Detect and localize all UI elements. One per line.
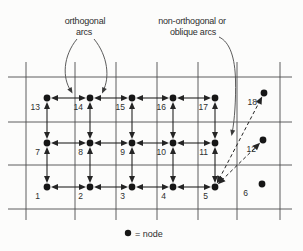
arc-arrowhead-icon	[121, 140, 128, 146]
arc-arrowhead-icon	[94, 184, 101, 190]
arc-arrowhead-icon	[121, 184, 128, 190]
orthogonal-arc	[170, 102, 176, 139]
orthogonal-arc	[44, 102, 50, 139]
node-dot	[129, 140, 136, 147]
oblique-arcs-label-line2: oblique arcs	[170, 27, 217, 37]
orthogonal-arc	[212, 102, 218, 139]
orthogonal-arcs-label-line1: orthogonal	[65, 16, 106, 26]
arc-arrowhead-icon	[87, 132, 93, 139]
legend-node-dot-icon	[125, 230, 131, 236]
orthogonal-arc	[51, 140, 86, 146]
arc-arrowhead-icon	[136, 184, 143, 190]
arc-arrowhead-icon	[44, 102, 50, 109]
arc-arrowhead-icon	[87, 102, 93, 109]
node-dot	[212, 140, 219, 147]
arc-arrowhead-icon	[129, 147, 135, 154]
node-dot	[87, 184, 94, 191]
arc-arrowhead-icon	[177, 95, 184, 101]
node-dot	[212, 95, 219, 102]
node-label: 10	[157, 147, 167, 157]
grid-lines-layer	[8, 62, 292, 220]
orthogonal-leader-right-line	[94, 39, 107, 91]
node-dot	[259, 181, 266, 188]
node-dot	[170, 140, 177, 147]
node-dot	[129, 184, 136, 191]
arc-arrowhead-icon	[44, 176, 50, 183]
node-label: 1	[35, 191, 40, 201]
node-dot	[44, 95, 51, 102]
node-label: 16	[157, 102, 167, 112]
node-label: 6	[243, 188, 248, 198]
orthogonal-arc	[177, 95, 211, 101]
arc-arrowhead-icon	[121, 95, 128, 101]
arc-arrowhead-icon	[204, 95, 211, 101]
orthogonal-arc	[51, 95, 86, 101]
orthogonal-arc	[94, 140, 128, 146]
node-label: 4	[161, 191, 166, 201]
orthogonal-arc	[136, 95, 169, 101]
node-label: 14	[74, 102, 84, 112]
orthogonal-arc	[51, 184, 86, 190]
orthogonal-arcs-label-line2: arcs	[76, 27, 93, 37]
arc-arrowhead-icon	[87, 176, 93, 183]
node-label: 9	[120, 147, 125, 157]
arc-arrowhead-icon	[51, 140, 58, 146]
orthogonal-arc	[177, 184, 211, 190]
node-label: 11	[199, 147, 208, 157]
orthogonal-arc	[136, 184, 169, 190]
node-label: 15	[116, 102, 126, 112]
diagram-canvas: 123456789101112131415161718 orthogonal a…	[0, 0, 303, 251]
node-label: 17	[199, 102, 209, 112]
arc-arrowhead-icon	[212, 147, 218, 154]
arc-arrowhead-icon	[129, 102, 135, 109]
node-label: 18	[248, 97, 258, 107]
arc-arrowhead-icon	[79, 95, 86, 101]
node-label: 2	[78, 191, 83, 201]
arc-arrowhead-icon	[87, 147, 93, 154]
arc-arrowhead-icon	[79, 184, 86, 190]
node-label: 12	[247, 144, 257, 154]
orthogonal-leader-left-arrowhead-icon	[67, 87, 72, 93]
arc-arrowhead-icon	[136, 95, 143, 101]
arc-arrowhead-icon	[129, 176, 135, 183]
arc-arrowhead-icon	[177, 140, 184, 146]
node-label: 5	[203, 191, 208, 201]
oblique-leader-arrowhead-icon	[230, 130, 235, 136]
node-dot	[170, 95, 177, 102]
arc-arrowhead-icon	[212, 102, 218, 109]
arc-arrowhead-icon	[177, 184, 184, 190]
oblique-leader-line	[219, 37, 236, 132]
grid-network-figure: 123456789101112131415161718 orthogonal a…	[0, 0, 303, 251]
orthogonal-arc	[94, 95, 128, 101]
arc-arrowhead-icon	[212, 132, 218, 139]
node-dot	[261, 90, 268, 97]
orthogonal-arc	[87, 102, 93, 139]
arc-arrowhead-icon	[204, 140, 211, 146]
arc-arrowhead-icon	[44, 132, 50, 139]
legend-text: = node	[135, 229, 163, 239]
arc-arrowhead-icon	[129, 132, 135, 139]
arc-arrowhead-icon	[204, 184, 211, 190]
node-dot	[260, 137, 267, 144]
arc-arrowhead-icon	[79, 140, 86, 146]
node-label: 8	[78, 147, 83, 157]
node-dot	[44, 140, 51, 147]
oblique-arc	[217, 97, 262, 184]
oblique-arc-line	[219, 101, 260, 179]
node-dot	[87, 95, 94, 102]
node-dot	[212, 184, 219, 191]
arc-arrowhead-icon	[51, 184, 58, 190]
nodes-layer: 123456789101112131415161718	[31, 90, 268, 201]
orthogonal-arc	[129, 102, 135, 139]
arc-arrowhead-icon	[170, 132, 176, 139]
arc-arrowhead-icon	[170, 102, 176, 109]
orthogonal-arc	[94, 184, 128, 190]
node-dot	[87, 140, 94, 147]
node-label: 13	[31, 102, 41, 112]
orthogonal-arc	[136, 140, 169, 146]
arc-arrowhead-icon	[51, 95, 58, 101]
arc-arrowhead-icon	[162, 140, 169, 146]
arc-arrowhead-icon	[170, 147, 176, 154]
node-label: 3	[120, 191, 125, 201]
node-dot	[44, 184, 51, 191]
